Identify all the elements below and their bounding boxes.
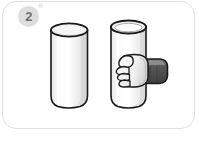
right-cylinder-opening <box>115 23 142 31</box>
left-cylinder-highlight <box>57 32 60 104</box>
right-cylinder-highlight <box>117 29 120 104</box>
left-cylinder-group <box>51 23 88 108</box>
step-illustration <box>0 0 199 141</box>
hand-group <box>116 54 148 87</box>
hand-finger-3 <box>119 80 130 87</box>
illustration-card-root: 2 <box>0 0 199 141</box>
left-cylinder-top-inner <box>54 26 84 35</box>
